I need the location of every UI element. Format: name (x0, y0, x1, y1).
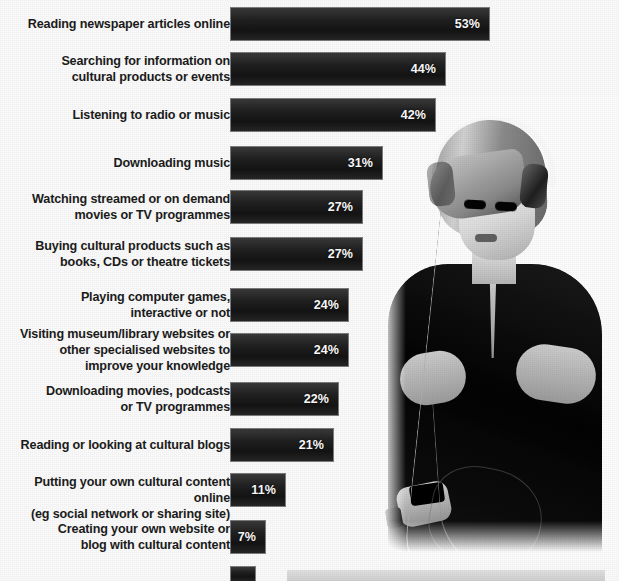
bar-category-label: Buying cultural products such as books, … (2, 238, 230, 270)
bottom-panel (287, 570, 605, 581)
horizontal-bar-chart: Reading newspaper articles online53%Sear… (0, 0, 619, 581)
bar-category-label: Reading or looking at cultural blogs (2, 437, 230, 453)
bar: 24% (231, 334, 348, 366)
bar: 24% (231, 289, 348, 321)
bar-category-label: Searching for information on cultural pr… (2, 53, 230, 85)
bar-category-label: Putting your own cultural content online… (2, 474, 230, 522)
bar: 27% (231, 238, 362, 270)
bar-value-label: 11% (251, 483, 276, 497)
bar-category-label: Playing computer games, interactive or n… (2, 289, 230, 321)
bar: 44% (231, 53, 445, 85)
bar: 42% (231, 99, 435, 131)
bar (231, 567, 255, 581)
infographic-page: Reading newspaper articles online53%Sear… (0, 0, 619, 581)
bar-category-label: Downloading movies, podcasts or TV progr… (2, 383, 230, 415)
bar-value-label: 44% (411, 62, 436, 76)
bar: 27% (231, 191, 362, 223)
bar-value-label: 24% (314, 343, 339, 357)
bar: 21% (231, 429, 333, 461)
bar-value-label: 21% (299, 438, 324, 452)
bar: 53% (231, 8, 489, 40)
bar-value-label: 27% (328, 247, 353, 261)
bar-category-label: Watching streamed or on demand movies or… (2, 191, 230, 223)
bar-value-label: 42% (401, 108, 426, 122)
bar-value-label: 7% (238, 530, 256, 544)
bar: 22% (231, 383, 338, 415)
bar-category-label: Creating your own website or blog with c… (2, 521, 230, 553)
bar-category-label: Listening to radio or music (2, 107, 230, 123)
bar-category-label: Reading newspaper articles online (2, 16, 230, 32)
bar-value-label: 31% (348, 156, 373, 170)
bar: 31% (231, 147, 382, 179)
bar: 7% (231, 521, 265, 553)
bar-value-label: 53% (455, 17, 480, 31)
bar-value-label: 22% (304, 392, 329, 406)
bar-category-label: Visiting museum/library websites or othe… (2, 326, 230, 374)
bar-value-label: 24% (314, 298, 339, 312)
bar-value-label: 27% (328, 200, 353, 214)
bar: 11% (231, 474, 285, 506)
bar-category-label: Downloading music (2, 155, 230, 171)
